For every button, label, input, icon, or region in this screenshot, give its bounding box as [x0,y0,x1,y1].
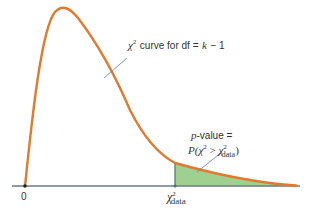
chi-subscript: data [171,196,186,206]
chi-square-curve [25,8,296,186]
k-symbol: k [202,39,207,51]
chi-square-diagram [0,0,310,219]
chi-superscript: 2 [133,38,137,46]
curve-label-text: curve for df = [140,40,199,51]
pvalue-text: -value = [197,130,233,141]
pvalue-label-line1: p-value = [191,130,232,141]
chi-data-subscript: data [222,150,235,159]
origin-point [23,184,27,188]
greater-than: > [207,144,219,156]
p-value-shaded-area [175,163,296,186]
prob-prefix: P( [188,144,198,156]
curve-label: χ2 curve for df = k − 1 [128,40,225,51]
minus-one: − 1 [210,40,224,51]
prob-close: ) [235,144,239,156]
zero-tick-label: 0 [21,192,27,202]
pvalue-label-line2: P(χ2 > χ2data) [188,145,239,156]
chi-data-point [173,184,176,187]
chi-data-tick-label: χ2data [167,191,186,203]
